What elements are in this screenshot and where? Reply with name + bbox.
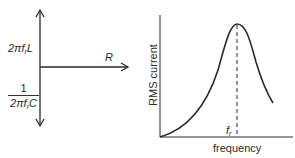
inductive-reactance-label: 2πfrL bbox=[8, 43, 33, 57]
capacitive-reactance-label: 1 2πfrC bbox=[8, 82, 39, 113]
resonance-curve bbox=[160, 24, 273, 137]
resistance-label: R bbox=[105, 52, 113, 63]
y-axis-label: RMS current bbox=[147, 35, 159, 115]
x-axis-label: frequency bbox=[213, 143, 261, 154]
resonance-frequency-label: fr bbox=[226, 125, 231, 139]
resonance-graph bbox=[160, 15, 293, 137]
phasor-diagram bbox=[40, 10, 128, 126]
